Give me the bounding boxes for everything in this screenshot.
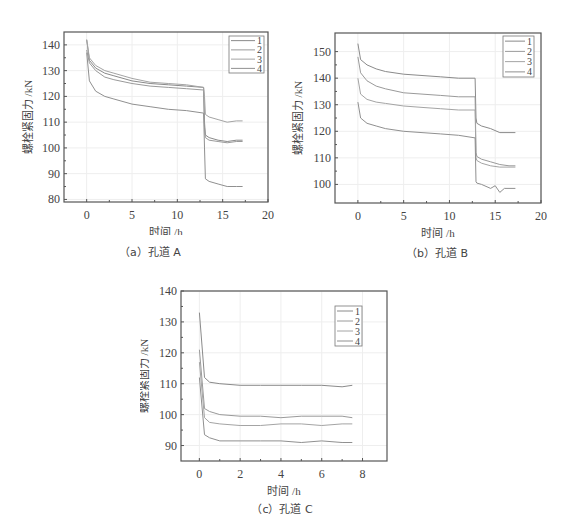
chart-b-plot: 05101520100110120130140150时间 /h螺栓紧固力 /kN… xyxy=(290,0,569,240)
series-2-line xyxy=(358,57,516,166)
legend: 1234 xyxy=(335,306,362,347)
series-3-line xyxy=(358,78,516,167)
y-tick-label: 100 xyxy=(42,141,60,155)
y-axis-label: 螺栓紧固力 /kN xyxy=(21,80,34,154)
legend-label: 4 xyxy=(355,336,360,347)
y-axis-label: 螺栓紧固力 /kN xyxy=(291,81,304,155)
x-tick-label: 20 xyxy=(535,209,547,223)
y-tick-label: 100 xyxy=(159,408,177,422)
series-4-line xyxy=(199,378,352,443)
legend-label: 4 xyxy=(257,63,262,74)
y-tick-label: 130 xyxy=(159,315,177,329)
chart-b: 05101520100110120130140150时间 /h螺栓紧固力 /kN… xyxy=(290,0,569,240)
y-tick-label: 120 xyxy=(159,346,177,360)
chart-c: 0246890100110120130140时间 /h螺栓紧固力 /kN1234 xyxy=(140,280,430,500)
chart-a: 051015208090100110120130140时间 /h螺栓紧固力 /k… xyxy=(0,0,285,235)
x-axis-label: 时间 /h xyxy=(149,226,183,235)
x-tick-label: 20 xyxy=(262,208,274,222)
series-lines xyxy=(199,313,352,443)
x-tick-label: 15 xyxy=(217,208,229,222)
x-tick-label: 10 xyxy=(443,209,455,223)
y-tick-label: 110 xyxy=(42,115,60,129)
axis-ticks: 0246890100110120130140 xyxy=(159,284,366,481)
chart-c-plot: 0246890100110120130140时间 /h螺栓紧固力 /kN1234 xyxy=(140,280,430,500)
caption-a: （a）孔道 A xyxy=(110,243,190,259)
x-tick-label: 5 xyxy=(129,208,135,222)
x-tick-label: 15 xyxy=(489,209,501,223)
y-tick-label: 110 xyxy=(313,151,331,165)
y-tick-label: 90 xyxy=(165,439,177,453)
x-tick-label: 10 xyxy=(171,208,183,222)
x-tick-label: 8 xyxy=(360,467,366,481)
series-3-line xyxy=(87,40,243,123)
legend-label: 4 xyxy=(527,66,532,77)
y-tick-label: 110 xyxy=(159,377,177,391)
y-tick-label: 130 xyxy=(313,98,331,112)
x-tick-label: 0 xyxy=(196,467,202,481)
y-tick-label: 130 xyxy=(42,64,60,78)
series-lines xyxy=(87,40,243,187)
caption-c: （c）孔道 C xyxy=(242,500,322,516)
x-axis-label: 时间 /h xyxy=(421,227,455,239)
y-axis-label: 螺栓紧固力 /kN xyxy=(140,339,150,413)
y-tick-label: 150 xyxy=(313,45,331,59)
caption-b: （b）孔道 B xyxy=(397,244,477,260)
y-tick-label: 100 xyxy=(313,177,331,191)
series-1-line xyxy=(199,313,352,387)
x-tick-label: 6 xyxy=(319,467,325,481)
series-lines xyxy=(358,44,516,193)
x-tick-label: 0 xyxy=(84,208,90,222)
x-axis-label: 时间 /h xyxy=(267,485,301,497)
y-tick-label: 90 xyxy=(48,167,60,181)
x-tick-label: 2 xyxy=(237,467,243,481)
series-4-line xyxy=(358,102,516,192)
legend: 1234 xyxy=(503,36,534,78)
y-tick-label: 140 xyxy=(42,38,60,52)
x-tick-label: 5 xyxy=(401,209,407,223)
x-tick-label: 0 xyxy=(355,209,361,223)
chart-a-plot: 051015208090100110120130140时间 /h螺栓紧固力 /k… xyxy=(0,0,285,235)
x-tick-label: 4 xyxy=(278,467,284,481)
y-tick-label: 120 xyxy=(313,124,331,138)
y-tick-label: 120 xyxy=(42,89,60,103)
y-tick-label: 80 xyxy=(48,192,60,206)
series-1-line xyxy=(87,40,243,142)
y-tick-label: 140 xyxy=(313,71,331,85)
legend: 1234 xyxy=(229,35,264,74)
y-tick-label: 140 xyxy=(159,284,177,298)
